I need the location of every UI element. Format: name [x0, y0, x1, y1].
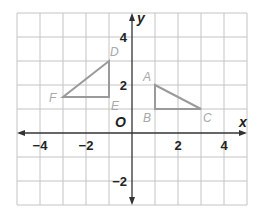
- y-axis-arrow-down-icon: [129, 197, 135, 205]
- x-axis-label: x: [238, 114, 248, 130]
- vertex-label-a: A: [142, 70, 151, 84]
- y-axis-arrow-up-icon: [129, 13, 135, 21]
- vertex-label-b: B: [143, 111, 151, 125]
- x-axis-arrow-left-icon: [17, 130, 25, 136]
- x-tick-label: −4: [33, 138, 49, 153]
- x-tick-label: −2: [79, 138, 94, 153]
- coordinate-plane: −4−22442−2OxyABCDEF: [0, 0, 259, 214]
- vertex-label-f: F: [49, 91, 57, 105]
- y-tick-label: −2: [112, 174, 127, 189]
- x-axis-arrow-right-icon: [239, 130, 247, 136]
- y-tick-label: 2: [120, 78, 127, 93]
- x-tick-label: 2: [174, 138, 181, 153]
- x-tick-label: 4: [220, 138, 228, 153]
- vertex-label-c: C: [203, 111, 212, 125]
- y-axis-label: y: [136, 10, 146, 26]
- y-tick-label: 4: [120, 30, 128, 45]
- vertex-label-d: D: [110, 45, 119, 59]
- origin-label: O: [115, 114, 126, 130]
- vertex-label-e: E: [111, 99, 120, 113]
